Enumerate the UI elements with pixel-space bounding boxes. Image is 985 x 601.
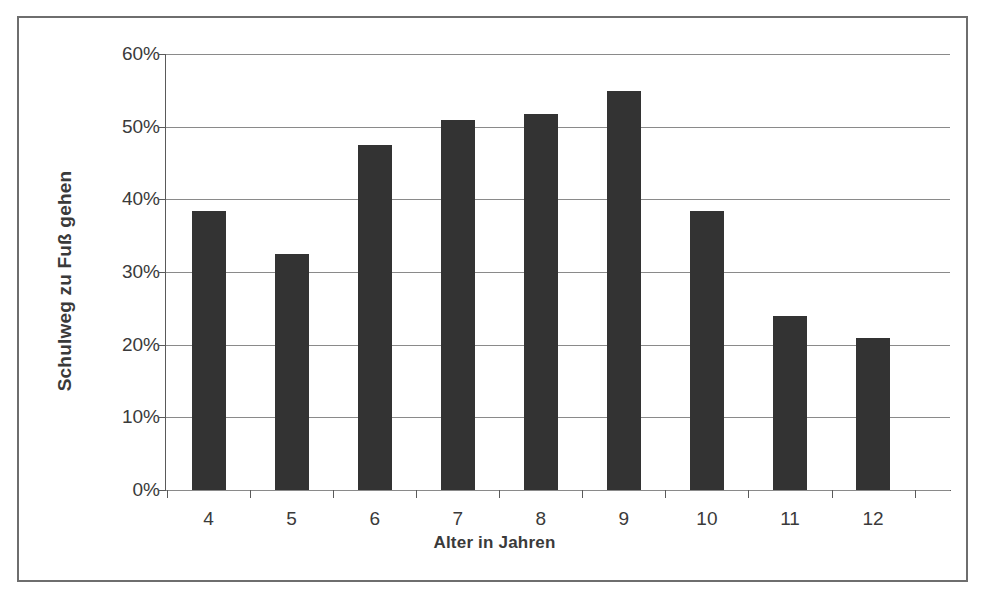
y-tick-mark [159,345,166,346]
x-tick-mark [665,490,666,498]
x-tick-mark [582,490,583,498]
gridline [165,54,950,55]
x-tick-label: 11 [750,508,830,530]
y-tick-label: 50% [30,116,160,138]
bar [275,254,309,490]
plot-area: 0%10%20%30%40%50%60% 456789101112 [165,38,950,494]
bar [773,316,807,490]
y-tick-mark [159,272,166,273]
y-tick-mark [159,127,166,128]
y-tick-mark [159,199,166,200]
bar [607,91,641,490]
x-tick-mark [748,490,749,498]
x-tick-mark [167,490,168,498]
bar [192,211,226,490]
x-tick-label: 6 [335,508,415,530]
y-tick-mark [159,54,166,55]
bar [358,145,392,490]
x-tick-mark [915,490,916,498]
x-tick-label: 9 [584,508,664,530]
x-tick-label: 4 [169,508,249,530]
x-tick-label: 12 [833,508,913,530]
y-tick-mark [159,490,166,491]
y-tick-label: 40% [30,188,160,210]
x-tick-mark [333,490,334,498]
x-tick-mark [416,490,417,498]
y-tick-label: 20% [30,334,160,356]
x-tick-mark [832,490,833,498]
x-tick-label: 8 [501,508,581,530]
figure-panel: Schulweg zu Fuß gehen 0%10%20%30%40%50%6… [17,16,968,582]
x-axis-label: Alter in Jahren [19,533,970,553]
y-tick-label: 30% [30,261,160,283]
bar [690,211,724,490]
x-tick-label: 5 [252,508,332,530]
y-tick-label: 0% [30,479,160,501]
x-tick-label: 10 [667,508,747,530]
y-tick-mark [159,417,166,418]
y-tick-label: 60% [30,43,160,65]
x-tick-mark [250,490,251,498]
bar [856,338,890,490]
bar [441,120,475,490]
y-tick-label: 10% [30,406,160,428]
bar [524,114,558,490]
x-tick-mark [499,490,500,498]
x-tick-label: 7 [418,508,498,530]
